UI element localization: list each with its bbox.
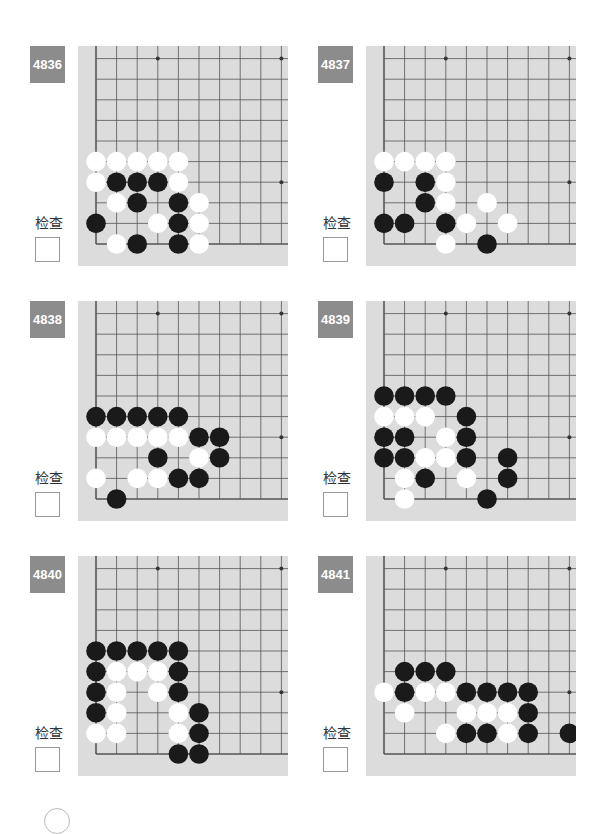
- black-stone: [169, 234, 189, 254]
- go-board: [78, 46, 288, 266]
- white-stone: [436, 193, 456, 213]
- black-stone: [210, 448, 230, 468]
- check-box[interactable]: [323, 237, 348, 262]
- white-stone: [457, 703, 477, 723]
- black-stone: [148, 641, 168, 661]
- white-stone: [415, 682, 435, 702]
- white-stone: [86, 724, 106, 744]
- white-stone: [374, 407, 394, 427]
- black-stone: [189, 744, 209, 764]
- white-stone: [436, 152, 456, 172]
- check-box[interactable]: [323, 492, 348, 517]
- white-stone: [86, 152, 106, 172]
- black-stone: [518, 703, 538, 723]
- black-stone: [436, 386, 456, 406]
- black-stone: [395, 386, 415, 406]
- black-stone: [169, 193, 189, 213]
- black-stone: [498, 448, 518, 468]
- black-stone: [169, 214, 189, 234]
- white-stone: [395, 489, 415, 509]
- black-stone: [477, 682, 497, 702]
- black-stone: [415, 193, 435, 213]
- black-stone: [107, 489, 127, 509]
- problem-number: 4837: [318, 46, 353, 83]
- black-stone: [148, 172, 168, 192]
- white-stone: [148, 662, 168, 682]
- white-stone: [457, 469, 477, 489]
- white-stone: [189, 234, 209, 254]
- white-stone: [148, 682, 168, 702]
- white-stone: [189, 214, 209, 234]
- white-stone: [169, 703, 189, 723]
- go-board: [366, 46, 576, 266]
- black-stone: [169, 744, 189, 764]
- black-stone: [148, 407, 168, 427]
- black-stone: [395, 682, 415, 702]
- black-stone: [169, 407, 189, 427]
- problem-number: 4840: [30, 556, 65, 593]
- white-stone: [436, 234, 456, 254]
- white-stone: [148, 152, 168, 172]
- black-stone: [169, 662, 189, 682]
- check-label: 检查: [320, 722, 354, 742]
- check-box[interactable]: [35, 237, 60, 262]
- white-stone: [436, 448, 456, 468]
- black-stone: [457, 724, 477, 744]
- check-label: 检查: [32, 467, 66, 487]
- black-stone: [86, 641, 106, 661]
- white-stone: [86, 172, 106, 192]
- page-marker-icon: [44, 808, 70, 834]
- white-stone: [127, 152, 147, 172]
- white-stone: [415, 407, 435, 427]
- white-stone: [148, 214, 168, 234]
- white-stone: [395, 469, 415, 489]
- check-label: 检查: [320, 212, 354, 232]
- white-stone: [127, 662, 147, 682]
- white-stone: [107, 234, 127, 254]
- problem-number: 4841: [318, 556, 353, 593]
- white-stone: [107, 703, 127, 723]
- black-stone: [148, 448, 168, 468]
- white-stone: [436, 724, 456, 744]
- black-stone: [477, 724, 497, 744]
- problem-4838: 4838 检查: [30, 301, 320, 523]
- white-stone: [107, 152, 127, 172]
- black-stone: [415, 172, 435, 192]
- black-stone: [477, 489, 497, 509]
- black-stone: [436, 662, 456, 682]
- white-stone: [86, 469, 106, 489]
- white-stone: [395, 407, 415, 427]
- problem-4837: 4837 检查: [318, 46, 601, 268]
- white-stone: [415, 448, 435, 468]
- white-stone: [127, 427, 147, 447]
- black-stone: [395, 427, 415, 447]
- black-stone: [189, 724, 209, 744]
- black-stone: [127, 641, 147, 661]
- black-stone: [415, 469, 435, 489]
- check-label: 检查: [32, 212, 66, 232]
- white-stone: [86, 427, 106, 447]
- check-box[interactable]: [35, 492, 60, 517]
- black-stone: [415, 386, 435, 406]
- white-stone: [498, 724, 518, 744]
- go-board: [366, 556, 576, 776]
- black-stone: [457, 407, 477, 427]
- go-board: [78, 301, 288, 521]
- black-stone: [86, 407, 106, 427]
- check-label: 检查: [32, 722, 66, 742]
- white-stone: [107, 682, 127, 702]
- black-stone: [374, 172, 394, 192]
- white-stone: [107, 427, 127, 447]
- black-stone: [107, 407, 127, 427]
- black-stone: [169, 641, 189, 661]
- black-stone: [86, 682, 106, 702]
- black-stone: [127, 172, 147, 192]
- check-box[interactable]: [35, 747, 60, 772]
- black-stone: [457, 427, 477, 447]
- black-stone: [374, 386, 394, 406]
- black-stone: [477, 234, 497, 254]
- white-stone: [395, 703, 415, 723]
- check-box[interactable]: [323, 747, 348, 772]
- black-stone: [210, 427, 230, 447]
- white-stone: [148, 427, 168, 447]
